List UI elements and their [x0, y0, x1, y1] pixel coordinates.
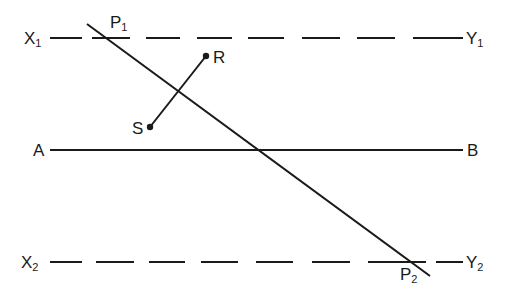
label-x1: X1: [24, 30, 41, 49]
label-b: B: [467, 142, 478, 159]
label-y1: Y1: [466, 30, 483, 49]
label-s: S: [132, 120, 143, 137]
label-y2: Y2: [466, 254, 483, 273]
segment-s-r: [150, 56, 206, 127]
point-r: [203, 53, 209, 59]
label-p2: P2: [400, 266, 417, 285]
diagram-canvas: [0, 0, 514, 303]
label-x2: X2: [21, 254, 38, 273]
label-a: A: [33, 142, 44, 159]
geometry-diagram: X1 Y1 P1 R S A B X2 Y2 P2: [0, 0, 514, 303]
label-r: R: [213, 49, 225, 66]
label-p1: P1: [110, 14, 127, 33]
point-s: [147, 124, 153, 130]
